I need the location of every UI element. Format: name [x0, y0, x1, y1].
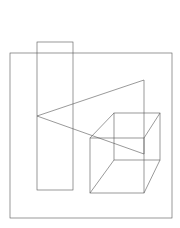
cube-front-face — [90, 138, 144, 193]
triangle — [37, 80, 144, 154]
drawing-canvas — [0, 0, 180, 228]
wireframe-cube — [90, 113, 160, 193]
cube-edge — [90, 160, 114, 193]
cube-edge — [90, 113, 114, 138]
cube-edge — [144, 160, 160, 193]
cube-edge — [144, 113, 160, 138]
cube-back-face — [114, 113, 160, 160]
tall-rectangle — [37, 42, 73, 190]
